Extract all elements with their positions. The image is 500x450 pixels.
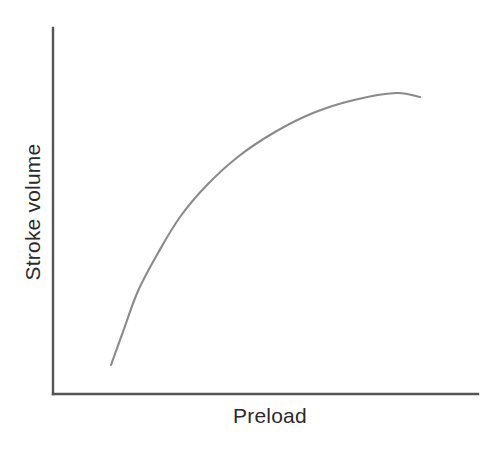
chart-plot-area: [0, 0, 500, 450]
chart-background: [0, 0, 500, 450]
chart-figure: Stroke volume Preload: [0, 0, 500, 450]
